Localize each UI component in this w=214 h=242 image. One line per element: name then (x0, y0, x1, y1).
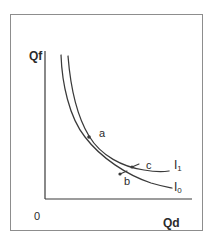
point-label-b: b (124, 176, 130, 187)
curve-I1 (68, 56, 169, 172)
origin-label: 0 (34, 211, 40, 222)
curve-label-I0: I0 (174, 182, 182, 194)
indifference-curve-plot (11, 15, 204, 232)
x-axis-label: Qd (163, 218, 180, 229)
curve-label-I0-sub: 0 (177, 186, 181, 195)
cut-off-caption-text: ratio has to be held constant. (6, 0, 126, 3)
point-label-a: a (99, 128, 105, 139)
figure-frame: Qf Qd 0 a b c I1 I0 (10, 14, 203, 231)
point-marker-a (87, 135, 91, 139)
point-label-c: c (146, 160, 152, 171)
point-pointer-c (132, 164, 139, 167)
curve-I0 (61, 55, 172, 188)
curve-label-I1: I1 (174, 160, 182, 172)
curve-label-I1-sub: 1 (177, 164, 181, 173)
point-pointer-b (120, 171, 127, 174)
y-axis-label: Qf (29, 51, 42, 62)
cut-off-caption-sliver: ratio has to be held constant. (6, 0, 126, 4)
